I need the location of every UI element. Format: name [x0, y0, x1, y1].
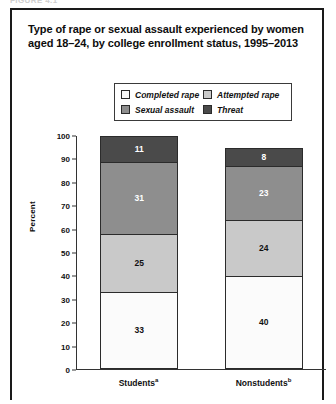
- legend-label: Attempted rape: [217, 90, 279, 100]
- plot-wrapper: Percent 1009080706050403020100 113125338…: [30, 136, 326, 392]
- y-tick-label: 10: [61, 342, 70, 351]
- bar-students[interactable]: 11312533: [100, 136, 178, 369]
- x-tick-label: Studentsa: [100, 377, 178, 388]
- y-tick-label: 100: [57, 132, 70, 141]
- plot-area: 113125338232440: [76, 136, 326, 370]
- legend-swatch-icon: [121, 105, 130, 114]
- bar-segment-value: 31: [135, 194, 144, 203]
- y-tick-label: 40: [61, 272, 70, 281]
- y-tick-label: 50: [61, 249, 70, 258]
- y-tick-label: 70: [61, 202, 70, 211]
- y-tick-label: 60: [61, 225, 70, 234]
- legend-label: Completed rape: [135, 90, 199, 100]
- legend-swatch-icon: [203, 90, 212, 99]
- bar-segment-threat[interactable]: 8: [225, 148, 303, 167]
- chart-title: Type of rape or sexual assault experienc…: [28, 22, 314, 50]
- y-tick-label: 20: [61, 319, 70, 328]
- legend-item-attempted-rape: Attempted rape: [203, 90, 285, 100]
- bar-segment-attempted-rape[interactable]: 25: [100, 234, 178, 292]
- legend-label: Sexual assault: [135, 105, 194, 115]
- bar-group: 113125338232440: [77, 136, 326, 369]
- bar-segment-value: 24: [259, 244, 268, 253]
- bar-segment-attempted-rape[interactable]: 24: [225, 220, 303, 276]
- legend-item-completed-rape: Completed rape: [121, 90, 203, 100]
- bar-segment-value: 23: [259, 189, 268, 198]
- figure-container: Type of rape or sexual assault experienc…: [10, 8, 324, 400]
- figure-caption: FIGURE 4.1: [10, 0, 58, 4]
- bar-segment-sexual-assault[interactable]: 31: [100, 162, 178, 234]
- bar-segment-completed-rape[interactable]: 40: [225, 276, 303, 369]
- y-axis-label: Percent: [28, 201, 37, 232]
- bar-segment-value: 11: [135, 145, 144, 154]
- y-tick-label: 30: [61, 295, 70, 304]
- bar-segment-value: 8: [261, 153, 266, 162]
- legend-label: Threat: [217, 105, 243, 115]
- x-tick-label: Nonstudentsb: [225, 377, 303, 388]
- bar-segment-value: 40: [259, 318, 268, 327]
- bar-segment-sexual-assault[interactable]: 23: [225, 166, 303, 220]
- y-tick-label: 0: [66, 366, 70, 375]
- bar-segment-value: 33: [135, 326, 144, 335]
- legend-swatch-icon: [203, 105, 212, 114]
- footnote-marker: b: [288, 377, 292, 383]
- y-tick-label: 90: [61, 155, 70, 164]
- x-axis-labels: StudentsaNonstudentsb: [76, 372, 326, 392]
- y-tick-label: 80: [61, 178, 70, 187]
- y-axis: 1009080706050403020100: [40, 136, 76, 392]
- footnote-marker: a: [155, 377, 158, 383]
- bar-segment-value: 25: [135, 259, 144, 268]
- bar-segment-threat[interactable]: 11: [100, 136, 178, 162]
- legend-item-sexual-assault: Sexual assault: [121, 105, 203, 115]
- legend-item-threat: Threat: [203, 105, 285, 115]
- chart-legend: Completed rape Attempted rape Sexual ass…: [114, 83, 292, 121]
- bar-segment-completed-rape[interactable]: 33: [100, 292, 178, 369]
- bar-nonstudents[interactable]: 8232440: [225, 136, 303, 369]
- legend-swatch-icon: [121, 90, 130, 99]
